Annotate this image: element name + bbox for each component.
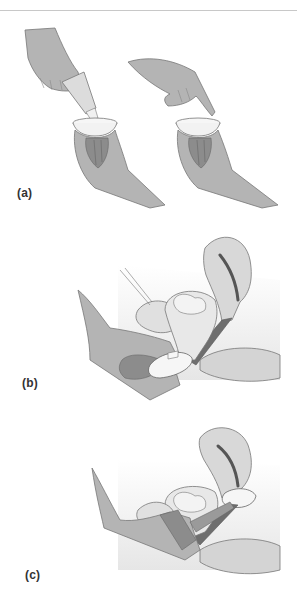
hand-holding-tube-illustration <box>25 28 165 208</box>
panel-b: (b) <box>0 220 297 405</box>
finger-spreading-spermicide-illustration <box>128 59 278 208</box>
panel-c: (c) <box>0 410 297 592</box>
pelvic-section-illustration <box>78 237 280 400</box>
panel-c-illustration <box>0 410 297 592</box>
panel-b-label: (b) <box>22 376 38 390</box>
panel-a: (a) <box>0 0 297 215</box>
diaphragm-in-place-illustration <box>92 428 280 574</box>
panel-a-illustration <box>0 0 297 215</box>
panel-c-label: (c) <box>25 568 40 582</box>
panel-a-label: (a) <box>17 186 32 200</box>
panel-b-illustration <box>0 220 297 405</box>
